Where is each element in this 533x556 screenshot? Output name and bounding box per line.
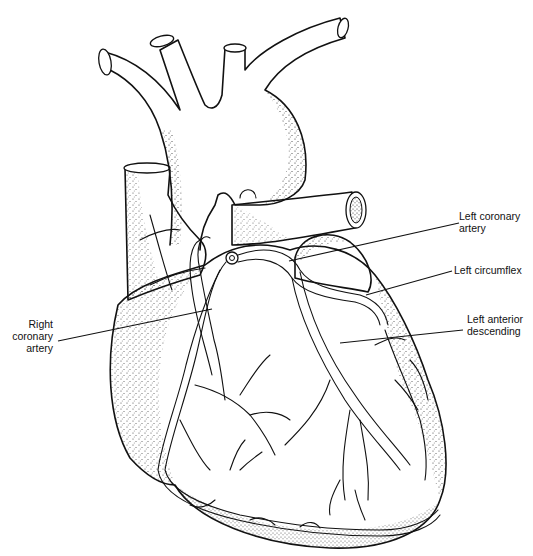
left-coronary-arteries <box>238 250 428 520</box>
label-left-anterior-descending: Left anterior descending <box>467 313 523 337</box>
label-line: Left coronary <box>459 210 520 222</box>
left-auricle <box>295 235 371 292</box>
label-line: Left anterior <box>467 313 523 325</box>
heart-ventricles <box>110 245 446 548</box>
label-line: Right <box>0 318 53 330</box>
right-coronary-artery <box>158 237 440 536</box>
coronary-ostium <box>226 252 238 264</box>
label-line: artery <box>0 342 53 354</box>
pulmonary-trunk <box>232 190 366 245</box>
heart-illustration <box>0 0 533 556</box>
label-line: coronary <box>0 330 53 342</box>
label-right-coronary-artery: Right coronary artery <box>0 318 53 354</box>
label-left-coronary-artery: Left coronary artery <box>459 210 520 234</box>
label-line: Left circumflex <box>454 264 522 276</box>
label-line: artery <box>459 222 520 234</box>
label-left-circumflex: Left circumflex <box>454 264 522 276</box>
heart-diagram: Left coronary artery Left circumflex Lef… <box>0 0 533 556</box>
label-line: descending <box>467 325 523 337</box>
